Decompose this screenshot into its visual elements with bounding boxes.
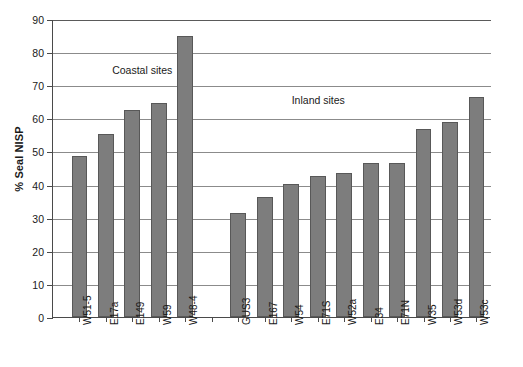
y-axis-tick-label: 60 (32, 114, 44, 125)
bar-W53d (442, 122, 458, 317)
bar-E71S (310, 176, 326, 317)
x-axis-tick (424, 317, 425, 322)
x-axis-tick-label: W53c (480, 299, 490, 325)
bar-E71N (389, 163, 405, 317)
y-axis-tick-label: 30 (32, 213, 44, 224)
annotation-inland-sites: Inland sites (292, 94, 345, 106)
y-axis-tick (47, 86, 53, 87)
x-axis-tick (79, 317, 80, 322)
x-axis-tick-label: E71N (401, 300, 411, 325)
x-axis-tick (476, 317, 477, 322)
y-axis-tick-label: 0 (38, 313, 44, 324)
x-axis-tick-label: W52a (348, 299, 358, 325)
gridline (53, 53, 491, 54)
x-axis-tick-label: E34 (375, 307, 385, 325)
x-axis-tick (397, 317, 398, 322)
bar-E167 (257, 197, 273, 317)
x-axis-tick-label: E17a (110, 302, 120, 325)
seal-nisp-bar-chart: % Seal NISP 0102030405060708090 W51-5E17… (0, 0, 523, 367)
x-axis-tick-label: E167 (269, 302, 279, 325)
bar-W48-4 (177, 36, 193, 317)
x-axis-tick-label: W51-5 (83, 296, 93, 325)
y-axis-tick-label: 80 (32, 48, 44, 59)
y-axis-tick-label: 70 (32, 81, 44, 92)
y-axis-tick (47, 119, 53, 120)
y-axis-tick (47, 285, 53, 286)
y-axis-tick-label: 10 (32, 280, 44, 291)
x-axis-tick (450, 317, 451, 322)
x-axis-tick-empty (212, 317, 213, 322)
y-axis-tick (47, 219, 53, 220)
x-axis-tick (132, 317, 133, 322)
y-axis-tick-label: 20 (32, 247, 44, 258)
bar-W35 (416, 129, 432, 317)
y-axis-tick (47, 53, 53, 54)
bar-W51-5 (72, 156, 88, 317)
y-axis-title: % Seal NISP (13, 104, 31, 214)
plot-area: 0102030405060708090 W51-5E17aE149W59W48-… (52, 20, 490, 318)
y-axis-tick (47, 186, 53, 187)
bar-W53c (469, 97, 485, 317)
gridline (53, 20, 491, 21)
y-axis-tick-label: 90 (32, 15, 44, 26)
annotation-coastal-sites: Coastal sites (112, 64, 172, 76)
x-axis-tick (106, 317, 107, 322)
y-axis-tick (47, 20, 53, 21)
y-axis-tick (47, 318, 53, 319)
bar-E17a (98, 134, 114, 317)
x-axis-tick-label: W54 (295, 304, 305, 325)
x-axis-tick-label: E71S (322, 301, 332, 325)
x-axis-tick-label: W48-4 (189, 296, 199, 325)
bar-E149 (124, 110, 140, 317)
x-axis-tick (238, 317, 239, 322)
y-axis-tick (47, 252, 53, 253)
x-axis-tick-label: GUS3 (242, 298, 252, 325)
bar-W59 (151, 103, 167, 317)
x-axis-tick (371, 317, 372, 322)
gridline (53, 86, 491, 87)
gridline (53, 119, 491, 120)
y-axis-tick-label: 50 (32, 147, 44, 158)
bar-E34 (363, 163, 379, 317)
x-axis-tick (318, 317, 319, 322)
bar-W54 (283, 184, 299, 317)
x-axis-tick (159, 317, 160, 322)
x-axis-tick-label: W53d (454, 299, 464, 325)
bar-W52a (336, 173, 352, 317)
x-axis-tick (291, 317, 292, 322)
y-axis-tick (47, 152, 53, 153)
x-axis-tick (344, 317, 345, 322)
x-axis-tick (265, 317, 266, 322)
x-axis-tick (185, 317, 186, 322)
x-axis-tick-label: W35 (428, 304, 438, 325)
y-axis-tick-label: 40 (32, 180, 44, 191)
x-axis-tick-label: W59 (163, 304, 173, 325)
x-axis-tick-label: E149 (136, 302, 146, 325)
